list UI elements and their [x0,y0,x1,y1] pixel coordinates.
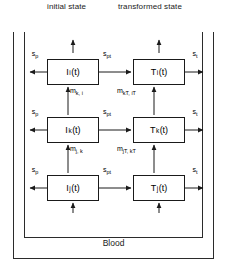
flow-subscript: t [196,169,198,175]
flow-label-spt-row-k: spt [103,108,111,117]
flow-label-spt-row-i: spt [103,50,111,59]
blood-label: Blood [0,238,227,248]
initial-state-box-k[interactable]: Ik(t) [47,117,99,143]
transfer-subscript: k, i [76,90,83,96]
transfer-subscript: j, k [76,148,83,154]
flow-label-st-row-j: st [188,166,202,175]
transfer-label-m-kT-iT: mkT, iT [117,87,136,96]
box-arg: (t) [159,67,168,77]
transfer-subscript: jT, kT [123,148,136,154]
transformed-state-box-i[interactable]: Ti(t) [133,59,185,85]
box-arg: (t) [71,67,80,77]
transfer-label-m-j-k: mj, k [70,145,83,154]
flow-subscript: t [196,111,198,117]
initial-state-box-i[interactable]: Ii(t) [47,59,99,85]
box-arg: (t) [160,125,169,135]
flow-label-st-row-i: st [188,50,202,59]
transfer-label-m-jT-kT: mjT, kT [117,145,136,154]
box-arg: (t) [72,125,81,135]
compartment-model-diagram: initial state transformed state Blood [0,0,227,267]
flow-subscript: p [35,111,38,117]
box-arg: (t) [159,183,168,193]
flow-label-sp-row-i: sp [28,50,42,59]
box-arg: (t) [71,183,80,193]
initial-state-box-j[interactable]: Ij(t) [47,175,99,201]
flow-label-sp-row-k: sp [28,108,42,117]
flow-label-spt-row-j: spt [103,166,111,175]
flow-subscript: pt [107,111,112,117]
flow-label-st-row-k: st [188,108,202,117]
flow-subscript: pt [107,169,112,175]
transformed-state-box-k[interactable]: Tk(t) [133,117,185,143]
column-header-transformed-state: transformed state [118,2,182,11]
transfer-label-m-k-i: mk, i [70,87,83,96]
flow-subscript: p [35,169,38,175]
flow-subscript: pt [107,53,112,59]
flow-subscript: t [196,53,198,59]
flow-label-sp-row-j: sp [28,166,42,175]
column-header-initial-state: initial state [47,2,86,11]
flow-subscript: p [35,53,38,59]
transfer-subscript: kT, iT [123,90,136,96]
transformed-state-box-j[interactable]: Tj(t) [133,175,185,201]
